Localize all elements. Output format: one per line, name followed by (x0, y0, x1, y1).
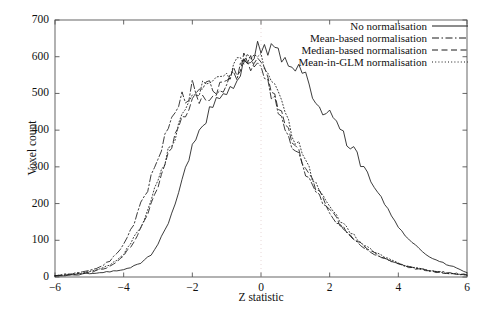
x-tick-label: 2 (327, 282, 333, 294)
legend-item: Mean-in-GLM normalisation (300, 56, 468, 68)
chart-legend: No normalisationMean-based normalisation… (300, 20, 468, 68)
y-tick-label: 0 (9, 271, 49, 283)
y-tick-label: 300 (9, 161, 49, 173)
legend-item: Mean-based normalisation (300, 32, 468, 44)
y-tick-label: 100 (9, 235, 49, 247)
legend-line-sample (432, 57, 468, 67)
x-tick-label: 0 (258, 282, 264, 294)
x-tick-label: 4 (395, 282, 401, 294)
legend-item-label: No normalisation (350, 21, 427, 32)
legend-item: Median-based normalisation (300, 44, 468, 56)
chart-figure: Voxel count Z statistic −6−4−20246010020… (0, 0, 484, 316)
y-tick-label: 200 (9, 198, 49, 210)
legend-item-label: Mean-based normalisation (310, 33, 427, 44)
x-tick-label: −2 (186, 282, 198, 294)
legend-item: No normalisation (300, 20, 468, 32)
y-tick-label: 700 (9, 14, 49, 26)
x-tick-label: −4 (118, 282, 130, 294)
x-tick-label: −6 (49, 282, 61, 294)
legend-line-sample (432, 33, 468, 43)
y-tick-label: 600 (9, 51, 49, 63)
y-tick-label: 400 (9, 124, 49, 136)
y-tick-label: 500 (9, 88, 49, 100)
legend-line-sample (432, 45, 468, 55)
legend-item-label: Mean-in-GLM normalisation (298, 57, 427, 68)
legend-item-label: Median-based normalisation (301, 45, 427, 56)
x-tick-label: 6 (464, 282, 470, 294)
legend-line-sample (432, 21, 468, 31)
